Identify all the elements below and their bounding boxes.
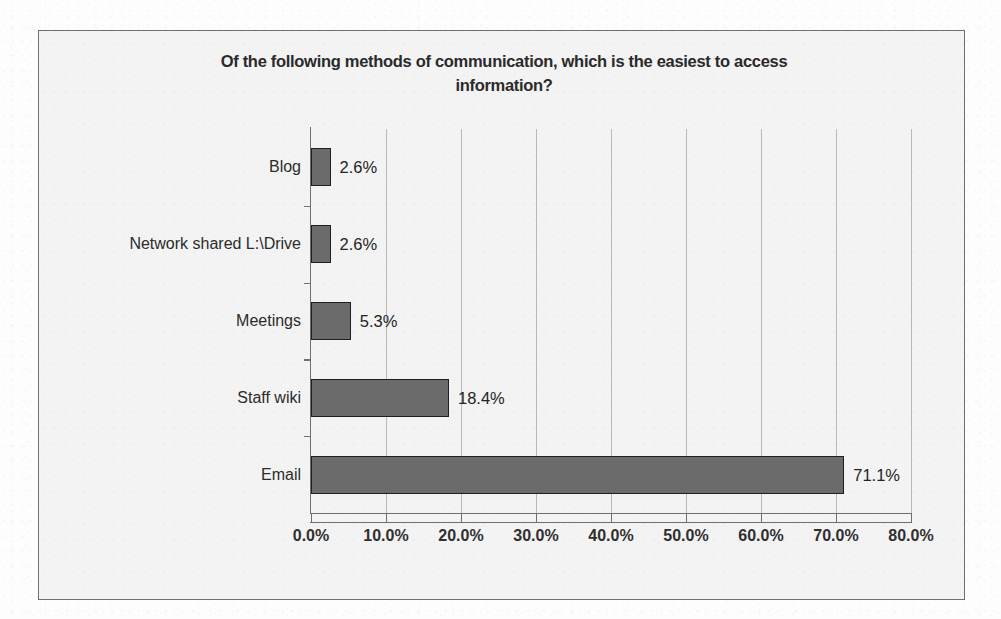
category-tick xyxy=(304,436,311,437)
chart-title-line-2: information? xyxy=(455,76,552,94)
category-label: Staff wiki xyxy=(237,389,301,407)
gridline xyxy=(911,129,912,513)
x-axis-tick-label: 70.0% xyxy=(813,527,858,545)
bar-value-label: 2.6% xyxy=(340,235,378,254)
chart-title: Of the following methods of communicatio… xyxy=(99,49,909,97)
x-axis-tick-label: 80.0% xyxy=(888,527,933,545)
chart-frame: Of the following methods of communicatio… xyxy=(38,30,965,600)
x-axis-tick xyxy=(386,513,387,522)
x-axis-tick-label: 20.0% xyxy=(438,527,483,545)
category-label: Blog xyxy=(269,158,301,176)
x-axis-tick-label: 30.0% xyxy=(513,527,558,545)
bar xyxy=(311,148,331,186)
x-axis-tick xyxy=(911,513,912,522)
bar xyxy=(311,302,351,340)
category-tick xyxy=(304,359,311,360)
x-axis-tick-label: 10.0% xyxy=(363,527,408,545)
category-axis-labels: EmailStaff wikiMeetingsNetwork shared L:… xyxy=(39,129,301,513)
x-axis-tick xyxy=(311,513,312,522)
x-axis-tick xyxy=(686,513,687,522)
category-label: Network shared L:\Drive xyxy=(129,235,301,253)
bar-value-label: 2.6% xyxy=(340,158,378,177)
bar xyxy=(311,379,449,417)
category-label: Email xyxy=(261,466,301,484)
x-axis-tick xyxy=(761,513,762,522)
x-axis-tick-label: 0.0% xyxy=(293,527,329,545)
x-axis-tick-label: 50.0% xyxy=(663,527,708,545)
bar-value-label: 71.1% xyxy=(853,465,900,484)
category-tick xyxy=(304,283,311,284)
x-axis-tick-labels: 0.0%10.0%20.0%30.0%40.0%50.0%60.0%70.0%8… xyxy=(311,527,911,553)
x-axis-baseline xyxy=(310,522,912,523)
plot-area: 71.1%18.4%5.3%2.6%2.6% xyxy=(311,129,911,513)
bar xyxy=(311,456,844,494)
x-axis-tick xyxy=(836,513,837,522)
bar-value-label: 5.3% xyxy=(360,312,398,331)
bar-value-label: 18.4% xyxy=(458,388,505,407)
category-label: Meetings xyxy=(236,312,301,330)
x-axis-tick xyxy=(611,513,612,522)
chart-title-line-1: Of the following methods of communicatio… xyxy=(221,52,788,70)
bar xyxy=(311,225,331,263)
x-axis-tick-label: 60.0% xyxy=(738,527,783,545)
x-axis-tick xyxy=(461,513,462,522)
category-tick xyxy=(304,206,311,207)
x-axis-tick-label: 40.0% xyxy=(588,527,633,545)
x-axis-tick xyxy=(536,513,537,522)
